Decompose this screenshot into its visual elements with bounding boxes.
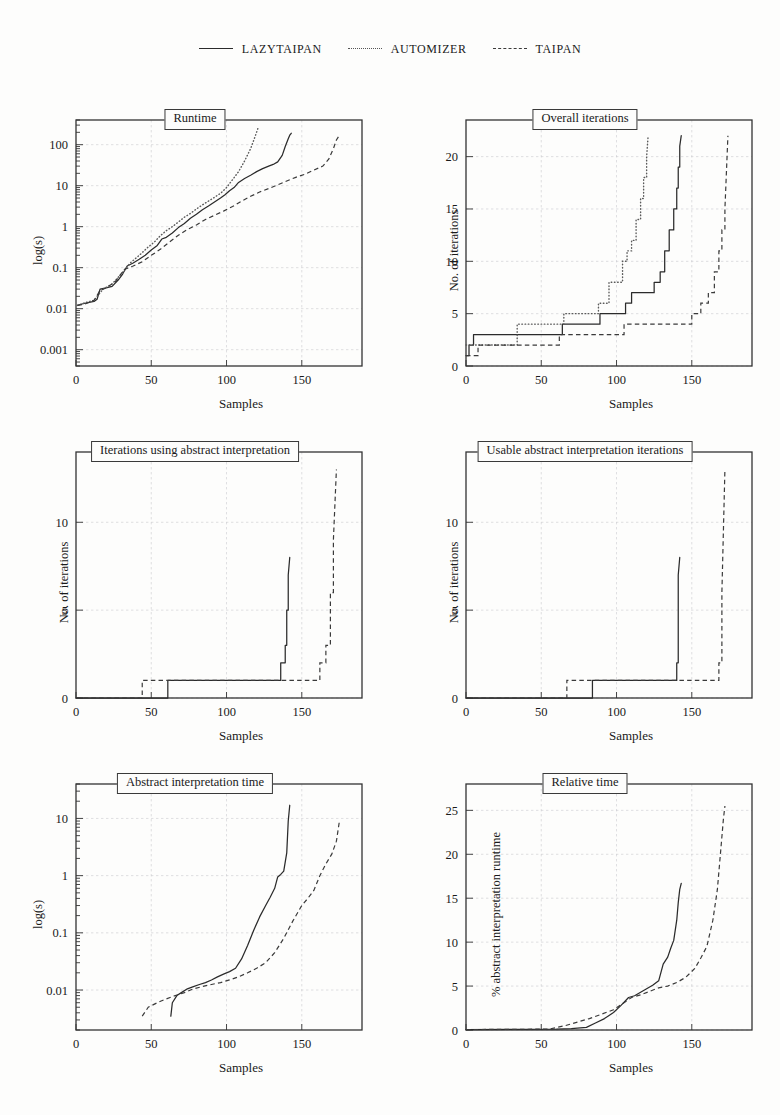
x-tick-label: 100 <box>217 1037 236 1051</box>
legend-label: LazyTaipan <box>242 38 322 58</box>
y-axis-label: log(s) <box>31 900 46 929</box>
legend-entry-taipan: Taipan <box>493 38 582 58</box>
y-tick-label: 5 <box>452 307 458 321</box>
plot-frame <box>466 120 752 366</box>
x-tick-label: 0 <box>73 705 79 719</box>
plot-frame <box>466 784 752 1030</box>
y-axis-label: No. of iterations <box>57 542 72 624</box>
y-tick-label: 10 <box>446 936 459 950</box>
legend-entry-automizer: Automizer <box>348 38 467 58</box>
plot-frame <box>76 452 362 698</box>
chart-title: Relative time <box>543 773 628 794</box>
chart-title: Iterations using abstract interpretation <box>91 441 299 462</box>
series-line-lazytaipan <box>171 805 290 1016</box>
y-axis-label: No. of iterations <box>447 542 462 624</box>
chart-panel-3: 0510050100150Usable abstract interpretat… <box>390 424 780 756</box>
x-tick-label: 0 <box>463 1037 469 1051</box>
x-tick-label: 100 <box>607 1037 626 1051</box>
y-tick-label: 10 <box>56 179 69 193</box>
panel-row-0: 0.0010.010.1110100050100150Runtimelog(s)… <box>0 92 780 424</box>
y-tick-label: 5 <box>452 980 458 994</box>
x-tick-label: 50 <box>145 1037 158 1051</box>
panel-row-2: 0.010.1110050100150Abstract interpretati… <box>0 756 780 1088</box>
y-tick-label: 100 <box>49 138 68 152</box>
series-line-taipan <box>466 136 728 356</box>
y-tick-label: 1 <box>62 220 68 234</box>
x-tick-label: 100 <box>217 705 236 719</box>
x-tick-label: 0 <box>73 373 79 387</box>
legend-label: Taipan <box>536 38 582 58</box>
x-tick-label: 0 <box>73 1037 79 1051</box>
series-line-automizer <box>78 128 259 306</box>
x-axis-label: Samples <box>609 728 653 744</box>
x-tick-label: 150 <box>292 1037 311 1051</box>
dotted-line-icon <box>348 48 382 49</box>
x-tick-label: 100 <box>607 705 626 719</box>
y-tick-label: 1 <box>62 869 68 883</box>
chart-title: Abstract interpretation time <box>117 773 273 794</box>
chart-panel-5: 0510152025050100150Relative time% abstra… <box>390 756 780 1088</box>
series-line-taipan <box>142 821 339 1016</box>
figure-page: LazyTaipanAutomizerTaipan 0.0010.010.111… <box>0 0 780 1115</box>
series-line-taipan <box>78 135 340 305</box>
x-tick-label: 150 <box>682 1037 701 1051</box>
x-axis-label: Samples <box>609 1060 653 1076</box>
dashed-line-icon <box>493 48 527 49</box>
figure-legend: LazyTaipanAutomizerTaipan <box>0 38 780 58</box>
chart-panel-0: 0.0010.010.1110100050100150Runtimelog(s)… <box>0 92 390 424</box>
plot-frame <box>466 452 752 698</box>
x-tick-label: 0 <box>463 705 469 719</box>
y-tick-label: 10 <box>446 516 459 530</box>
x-tick-label: 150 <box>682 373 701 387</box>
y-axis-label: % abstract interpretation runtime <box>489 832 504 997</box>
plot-frame <box>76 120 362 366</box>
y-tick-label: 15 <box>446 892 459 906</box>
series-line-lazytaipan <box>78 133 292 305</box>
panel-grid: 0.0010.010.1110100050100150Runtimelog(s)… <box>0 92 780 1088</box>
x-tick-label: 50 <box>145 705 158 719</box>
y-tick-label: 0.01 <box>46 302 68 316</box>
y-tick-label: 20 <box>446 150 459 164</box>
panel-row-1: 0510050100150Iterations using abstract i… <box>0 424 780 756</box>
y-axis-label: log(s) <box>31 236 46 265</box>
x-tick-label: 50 <box>535 1037 548 1051</box>
y-tick-label: 10 <box>56 516 69 530</box>
series-line-taipan <box>76 470 336 698</box>
x-tick-label: 100 <box>217 373 236 387</box>
x-tick-label: 50 <box>535 373 548 387</box>
x-axis-label: Samples <box>219 396 263 412</box>
y-tick-label: 25 <box>446 804 459 818</box>
chart-title: Overall iterations <box>532 109 637 130</box>
x-tick-label: 0 <box>463 373 469 387</box>
legend-label: Automizer <box>391 38 467 58</box>
y-tick-label: 0 <box>452 360 458 374</box>
series-line-taipan <box>466 470 725 698</box>
y-tick-label: 10 <box>56 812 69 826</box>
y-tick-label: 20 <box>446 848 459 862</box>
y-tick-label: 0.01 <box>46 984 68 998</box>
x-tick-label: 150 <box>292 705 311 719</box>
y-tick-label: 0 <box>452 1024 458 1038</box>
legend-entry-lazytaipan: LazyTaipan <box>199 38 322 58</box>
chart-panel-1: 05101520050100150Overall iterationsNo. o… <box>390 92 780 424</box>
y-tick-label: 0.1 <box>52 926 68 940</box>
y-tick-label: 0 <box>62 692 68 706</box>
chart-title: Usable abstract interpretation iteration… <box>478 441 693 462</box>
y-tick-label: 0 <box>452 692 458 706</box>
x-tick-label: 50 <box>535 705 548 719</box>
series-line-lazytaipan <box>76 557 290 698</box>
series-line-lazytaipan <box>466 136 681 356</box>
y-axis-label: No. of iterations <box>447 210 462 292</box>
x-tick-label: 50 <box>145 373 158 387</box>
x-axis-label: Samples <box>219 1060 263 1076</box>
chart-canvas: 0.0010.010.1110100050100150 <box>0 92 390 424</box>
x-tick-label: 150 <box>682 705 701 719</box>
x-tick-label: 150 <box>292 373 311 387</box>
chart-panel-2: 0510050100150Iterations using abstract i… <box>0 424 390 756</box>
solid-line-icon <box>199 48 233 49</box>
chart-canvas: 0510152025050100150 <box>390 756 780 1088</box>
x-axis-label: Samples <box>609 396 653 412</box>
chart-panel-4: 0.010.1110050100150Abstract interpretati… <box>0 756 390 1088</box>
chart-title: Runtime <box>164 109 225 130</box>
x-axis-label: Samples <box>219 728 263 744</box>
